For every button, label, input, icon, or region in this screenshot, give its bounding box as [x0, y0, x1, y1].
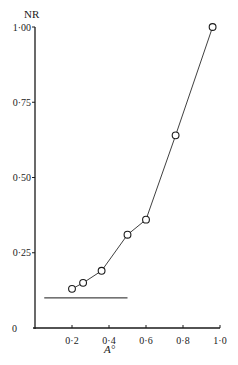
- data-point-marker: [143, 216, 150, 223]
- series-line: [72, 27, 213, 289]
- data-point-marker: [209, 24, 216, 31]
- x-tick-label: 1·0: [213, 335, 226, 346]
- x-tick-label: 0·2: [65, 335, 78, 346]
- y-tick-label: 0·25: [13, 247, 31, 258]
- y-tick-label: 1·00: [13, 22, 31, 33]
- data-series: [69, 24, 216, 293]
- data-point-marker: [98, 267, 105, 274]
- x-tick-label: 0·8: [176, 335, 189, 346]
- data-point-marker: [69, 285, 76, 292]
- y-tick-label: 0·75: [13, 97, 31, 108]
- data-point-marker: [80, 279, 87, 286]
- line-chart: 00·250·500·751·000·20·40·60·81·0 NR A°: [0, 0, 238, 365]
- x-tick-label: 0·6: [139, 335, 152, 346]
- chart-svg: 00·250·500·751·000·20·40·60·81·0 NR A°: [0, 0, 238, 365]
- data-point-marker: [124, 231, 131, 238]
- y-tick-label: 0: [12, 323, 17, 334]
- y-axis-title: NR: [24, 8, 40, 20]
- y-tick-label: 0·50: [13, 172, 31, 183]
- data-point-marker: [172, 132, 179, 139]
- axes: 00·250·500·751·000·20·40·60·81·0: [12, 22, 227, 347]
- x-axis-title: A°: [103, 343, 116, 355]
